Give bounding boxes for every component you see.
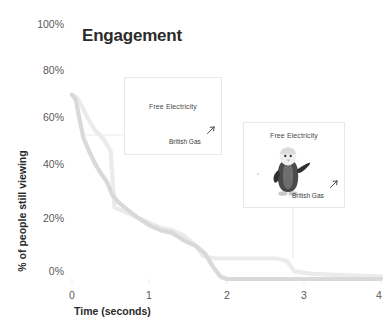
- x-axis-ticks: 0 1 2 3 4: [0, 289, 386, 305]
- x-tick-label: 3: [289, 289, 319, 301]
- x-tick-label: 0: [57, 289, 87, 301]
- x-axis-title: Time (seconds): [74, 305, 151, 317]
- creative-card-1: Free Electricity British Gas: [124, 77, 222, 155]
- penguin-mascot: [266, 145, 312, 197]
- creative-brand: British Gas: [169, 138, 201, 145]
- x-tick-label: 1: [134, 289, 164, 301]
- chart-canvas: Engagement 100% 80% 60% 40% 20% 0% % of …: [0, 0, 386, 331]
- x-tick-label: 4: [364, 289, 386, 301]
- creative-headline: Free Electricity: [244, 132, 344, 139]
- x-tick-label: 2: [212, 289, 242, 301]
- cursor-arrow-icon: [205, 124, 217, 136]
- creative-brand: British Gas: [292, 192, 324, 199]
- cursor-arrow-icon: [328, 178, 340, 190]
- creative-card-2: Free Electricity British Gas: [243, 122, 345, 208]
- sparkle-dot-icon: [257, 173, 259, 175]
- creative-headline: Free Electricity: [125, 103, 221, 110]
